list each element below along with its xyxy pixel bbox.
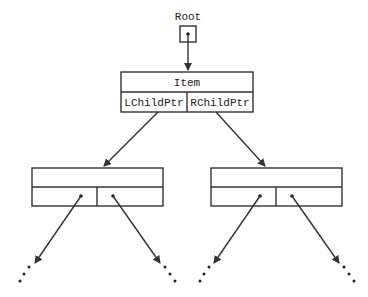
continuation-dots: [19, 266, 356, 283]
lchildptr-field: LChildPtr: [124, 97, 183, 109]
left-child-arrow: [104, 112, 158, 166]
binary-tree-diagram: Root Item LChildPtr RChildPtr: [0, 0, 368, 297]
root-label: Root: [175, 11, 201, 23]
root-node: Item LChildPtr RChildPtr: [121, 72, 253, 112]
right-child-node: [211, 168, 342, 263]
right-child-arrow: [216, 112, 265, 166]
rchildptr-field: RChildPtr: [190, 97, 249, 109]
item-field: Item: [174, 77, 201, 89]
left-child-node: [32, 168, 163, 263]
